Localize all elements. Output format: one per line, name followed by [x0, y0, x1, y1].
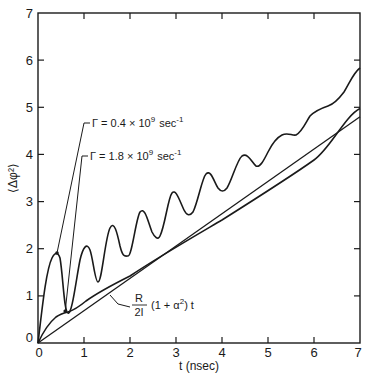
x-tick-1: 1	[80, 345, 87, 360]
y-tick-labels: 0 1 2 3 4 5 6 7	[26, 6, 33, 345]
y-tick-5: 5	[26, 100, 33, 115]
y-tick-0: 0	[26, 330, 33, 345]
chart: 0 1 2 3 4 5 6 7 0 1 2 3 4 5 6 7 t (nsec)…	[0, 0, 372, 377]
asymptote-line	[38, 117, 360, 343]
annotation-gamma-0-4: Γ = 0.4 × 109sec-1	[92, 115, 184, 129]
y-tick-7: 7	[26, 6, 33, 21]
curve-gamma-1-8	[38, 109, 360, 344]
x-tick-7: 7	[354, 345, 361, 360]
x-tick-5: 5	[264, 345, 271, 360]
annotation-gamma-1-8: Γ = 1.8 × 109sec-1	[90, 148, 182, 162]
x-tick-6: 6	[310, 345, 317, 360]
plot-frame	[38, 13, 360, 343]
formula-denominator: 2I	[134, 306, 143, 318]
y-axis-title: ⟨Δφ²⟩	[6, 163, 20, 193]
leader-gamma-1-8	[65, 156, 88, 313]
y-tick-1: 1	[26, 288, 33, 303]
annotation-formula: R 2I (1 + α2) t	[132, 292, 194, 318]
x-axis-title: t (nsec)	[179, 359, 219, 373]
marker-gamma-1-8	[63, 309, 66, 312]
leader-formula	[110, 295, 130, 307]
x-tick-0: 0	[35, 345, 42, 360]
x-tick-2: 2	[126, 345, 133, 360]
y-tick-2: 2	[26, 241, 33, 256]
x-ticks	[84, 13, 314, 343]
y-tick-3: 3	[26, 194, 33, 209]
x-tick-3: 3	[172, 345, 179, 360]
x-tick-labels: 0 1 2 3 4 5 6 7	[35, 345, 361, 360]
x-tick-4: 4	[218, 345, 225, 360]
marker-gamma-0-4	[55, 251, 59, 255]
y-tick-6: 6	[26, 53, 33, 68]
formula-numerator: R	[135, 292, 143, 304]
y-tick-4: 4	[26, 147, 33, 162]
formula-rest: (1 + α2) t	[151, 297, 194, 311]
y-ticks	[38, 60, 360, 296]
